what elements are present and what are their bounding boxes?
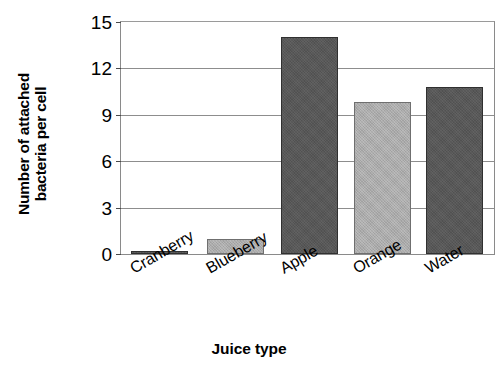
bar-orange <box>354 102 411 254</box>
bar-apple <box>281 37 338 254</box>
bar-chart: Number of attached bacteria per cell 036… <box>0 0 498 371</box>
y-axis-title-line-1: Number of attached <box>16 73 33 215</box>
y-axis-tick-label: 15 <box>91 13 112 32</box>
y-axis-tick-label: 9 <box>101 105 112 124</box>
y-axis-tick-label: 12 <box>91 59 112 78</box>
y-axis-tick <box>116 22 121 23</box>
y-axis-tick-label: 6 <box>101 152 112 171</box>
y-axis-tick <box>116 115 121 116</box>
y-axis-tick-label: 3 <box>101 198 112 217</box>
bar-water <box>426 87 483 254</box>
y-axis-tick <box>116 68 121 69</box>
y-axis-tick <box>116 208 121 209</box>
y-axis-tick-label: 0 <box>101 245 112 264</box>
x-axis-title: Juice type <box>0 340 498 358</box>
y-axis-tick <box>116 254 121 255</box>
y-axis-tick <box>116 161 121 162</box>
y-axis-title: Number of attached bacteria per cell <box>7 19 59 269</box>
y-axis-title-line-2: bacteria per cell <box>33 87 50 202</box>
plot-area: 03691215 <box>120 21 495 255</box>
